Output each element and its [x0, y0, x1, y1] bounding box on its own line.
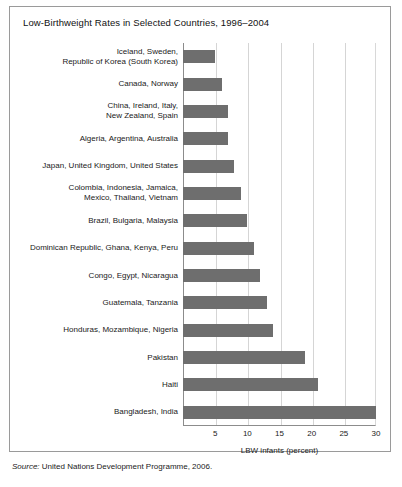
source-text: United Nations Development Programme, 20…	[42, 462, 212, 471]
bar	[183, 160, 234, 173]
category-label: Algeria, Argentina, Australia	[80, 134, 178, 144]
source-label: Source:	[12, 462, 40, 471]
bar-series: Iceland, Sweden, Republic of Korea (Sout…	[183, 43, 376, 426]
x-tick-label: 5	[213, 429, 217, 438]
bar	[183, 50, 215, 63]
category-label: Pakistan	[147, 353, 178, 363]
bar-row: Pakistan	[183, 351, 376, 364]
x-tick-label: 10	[243, 429, 252, 438]
bar	[183, 105, 228, 118]
bar	[183, 242, 254, 255]
bar-row: Colombia, Indonesia, Jamaica, Mexico, Th…	[183, 187, 376, 200]
category-label: Brazil, Bulgaria, Malaysia	[88, 216, 178, 226]
bar	[183, 296, 267, 309]
bar-row: Haiti	[183, 378, 376, 391]
x-tick-label: 15	[275, 429, 284, 438]
bar	[183, 351, 305, 364]
bar-row: Japan, United Kingdom, United States	[183, 160, 376, 173]
bar	[183, 406, 376, 419]
bar-row: Congo, Egypt, Nicaragua	[183, 269, 376, 282]
bar-row: Canada, Norway	[183, 78, 376, 91]
x-tick-label: 30	[372, 429, 381, 438]
category-label: Congo, Egypt, Nicaragua	[89, 271, 178, 281]
bar	[183, 78, 222, 91]
category-label: Dominican Republic, Ghana, Kenya, Peru	[30, 243, 178, 253]
bar	[183, 269, 260, 282]
bar-row: Iceland, Sweden, Republic of Korea (Sout…	[183, 50, 376, 63]
bar-row: Bangladesh, India	[183, 406, 376, 419]
x-axis-title: LBW infants (percent)	[183, 446, 376, 455]
figure-panel: Low-Birthweight Rates in Selected Countr…	[9, 6, 391, 452]
source-note: Source: United Nations Development Progr…	[12, 462, 212, 471]
bar-row: China, Ireland, Italy, New Zealand, Spai…	[183, 105, 376, 118]
x-tick-label: 20	[307, 429, 316, 438]
bar	[183, 324, 273, 337]
category-label: China, Ireland, Italy, New Zealand, Spai…	[106, 101, 178, 121]
category-label: Bangladesh, India	[114, 407, 178, 417]
bar-row: Honduras, Mozambique, Nigeria	[183, 324, 376, 337]
category-label: Haiti	[162, 380, 178, 390]
bar-row: Dominican Republic, Ghana, Kenya, Peru	[183, 242, 376, 255]
bar	[183, 187, 241, 200]
bar	[183, 378, 318, 391]
x-tick-label: 25	[339, 429, 348, 438]
chart-plot: Iceland, Sweden, Republic of Korea (Sout…	[10, 37, 390, 437]
category-label: Iceland, Sweden, Republic of Korea (Sout…	[62, 47, 178, 67]
bar-row: Brazil, Bulgaria, Malaysia	[183, 214, 376, 227]
category-label: Colombia, Indonesia, Jamaica, Mexico, Th…	[69, 183, 178, 203]
category-label: Guatemala, Tanzania	[103, 298, 178, 308]
bar	[183, 214, 247, 227]
category-label: Honduras, Mozambique, Nigeria	[63, 325, 178, 335]
category-label: Japan, United Kingdom, United States	[42, 161, 178, 171]
bar-row: Algeria, Argentina, Australia	[183, 132, 376, 145]
bar-row: Guatemala, Tanzania	[183, 296, 376, 309]
bar	[183, 132, 228, 145]
category-label: Canada, Norway	[118, 79, 178, 89]
chart-title: Low-Birthweight Rates in Selected Countr…	[23, 17, 269, 28]
